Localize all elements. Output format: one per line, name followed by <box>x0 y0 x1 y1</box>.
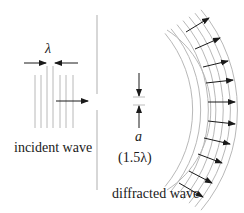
slit-width-indicator <box>133 73 145 128</box>
incident-wave-label: incident wave <box>14 140 92 156</box>
slit-width-value: (1.5λ) <box>118 150 152 166</box>
diffracted-arcs <box>165 10 237 210</box>
diffraction-diagram <box>0 0 244 213</box>
incident-wavefronts <box>35 66 73 128</box>
slit-width-label: a <box>135 129 142 145</box>
wavelength-label: λ <box>45 41 51 57</box>
diffracted-arrows <box>179 18 235 197</box>
diffracted-wave-label: diffracted wave <box>112 186 199 202</box>
